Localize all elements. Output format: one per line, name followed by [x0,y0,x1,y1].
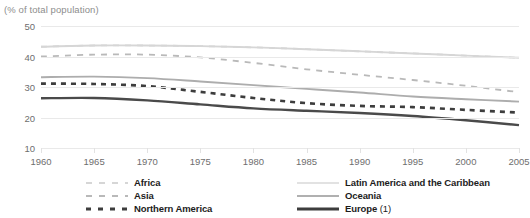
legend-item[interactable]: Latin America and the Caribbean [297,176,490,189]
legend-column-right: Latin America and the CaribbeanOceaniaEu… [297,176,490,215]
x-axis-tick-mark [466,148,467,153]
x-axis-tick-mark [413,148,414,153]
x-axis-tick-mark [41,148,42,153]
y-axis-tick-label: 50 [24,21,35,32]
legend-label: Northern America [134,203,212,214]
x-axis-tick-label: 1980 [243,156,264,167]
x-axis-tick-mark [200,148,201,153]
x-axis-tick-label: 1965 [84,156,105,167]
legend-swatch-icon [86,203,128,214]
legend-swatch-icon [86,190,128,201]
legend-item[interactable]: Northern America [86,202,212,215]
x-axis-tick-label: 1990 [349,156,370,167]
chart-subtitle: (% of total population) [4,4,99,15]
legend-label: Latin America and the Caribbean [345,177,490,188]
gridline [41,118,519,119]
x-axis-tick-label: 2000 [455,156,476,167]
y-axis-tick-label: 20 [24,112,35,123]
x-axis-tick-mark [519,148,520,153]
legend-label: Africa [134,177,160,188]
x-axis-tick-label: 1995 [402,156,423,167]
x-axis-tick-mark [253,148,254,153]
legend-swatch-icon [297,190,339,201]
legend-swatch-icon [86,177,128,188]
legend-column-left: AfricaAsiaNorthern America [86,176,212,215]
legend-item[interactable]: Europe (1) [297,202,490,215]
y-axis-tick-label: 30 [24,82,35,93]
legend-label: Europe (1) [345,203,391,214]
legend-swatch-icon [297,203,339,214]
y-axis-tick-label: 10 [24,143,35,154]
legend-label: Oceania [345,190,381,201]
x-axis-tick-label: 2005 [508,156,529,167]
legend-swatch-icon [297,177,339,188]
legend-item[interactable]: Africa [86,176,212,189]
x-axis-tick-mark [147,148,148,153]
gridline [41,87,519,88]
series-line [41,98,519,125]
plot-area: 1020304050196019651970197519801985199019… [41,26,519,148]
legend-label: Asia [134,190,154,201]
gridline [41,26,519,27]
legend-item[interactable]: Oceania [297,189,490,202]
gridline [41,57,519,58]
x-axis-tick-label: 1985 [296,156,317,167]
x-axis-tick-mark [94,148,95,153]
legend-item[interactable]: Asia [86,189,212,202]
y-axis-tick-label: 40 [24,51,35,62]
chart-legend: AfricaAsiaNorthern America Latin America… [0,176,528,216]
x-axis-tick-mark [360,148,361,153]
x-axis-tick-label: 1970 [137,156,158,167]
x-axis-tick-label: 1960 [30,156,51,167]
x-axis-tick-label: 1975 [190,156,211,167]
gridline [41,148,519,149]
x-axis-tick-mark [307,148,308,153]
